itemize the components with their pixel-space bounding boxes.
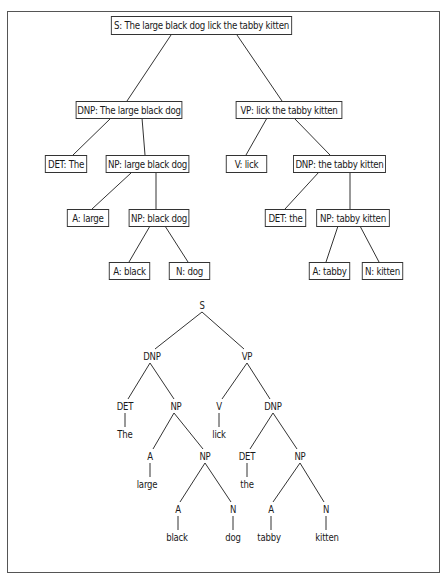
tree-edges: [0, 0, 448, 579]
tree-node-det-2: DET: [239, 450, 256, 462]
node-dnp: DNP: The large black dog: [76, 101, 183, 119]
tree-word-black: black: [166, 531, 188, 543]
tree-node-n-2: N: [323, 503, 329, 515]
tree-word-dog: dog: [225, 531, 240, 543]
tree-node-n: N: [230, 503, 236, 515]
node-n-dog: N: dog: [169, 262, 210, 280]
node-np-black-dog: NP: black dog: [129, 209, 190, 227]
tree-node-vp: VP: [242, 350, 253, 362]
node-dnp-2: DNP: the tabby kitten: [293, 155, 386, 173]
tree-node-det: DET: [117, 400, 134, 412]
node-a-black: A: black: [109, 262, 150, 280]
node-a-large: A: large: [67, 209, 109, 227]
node-s: S: The large black dog lick the tabby ki…: [111, 16, 292, 35]
node-np-tabby-kitten: NP: tabby kitten: [316, 209, 390, 227]
tree-node-np-2: NP: [199, 450, 210, 462]
tree-word-large: large: [137, 478, 158, 490]
node-a-tabby: A: tabby: [309, 262, 350, 280]
tree-word-tabby: tabby: [257, 531, 280, 543]
tree-word-the-2: the: [240, 478, 253, 490]
node-np: NP: large black dog: [106, 155, 190, 173]
tree-word-the: The: [117, 428, 132, 440]
tree-node-np-3: NP: [294, 450, 305, 462]
node-det: DET: The: [45, 155, 87, 173]
tree-node-s: S: [199, 299, 204, 311]
tree-word-kitten: kitten: [315, 531, 338, 543]
node-v: V: lick: [226, 155, 267, 173]
node-vp: VP: lick the tabby kitten: [236, 101, 343, 119]
tree-node-dnp: DNP: [143, 350, 160, 362]
tree-node-a: A: [147, 450, 153, 462]
tree-node-np: NP: [170, 400, 181, 412]
tree-node-dnp-2: DNP: [264, 400, 281, 412]
node-det-the: DET: the: [265, 209, 306, 227]
node-n-kitten: N: kitten: [362, 262, 403, 280]
tree-node-a-2: A: [175, 503, 181, 515]
tree-node-a-3: A: [268, 503, 274, 515]
tree-node-v: V: [216, 400, 222, 412]
tree-word-lick: lick: [212, 428, 226, 440]
